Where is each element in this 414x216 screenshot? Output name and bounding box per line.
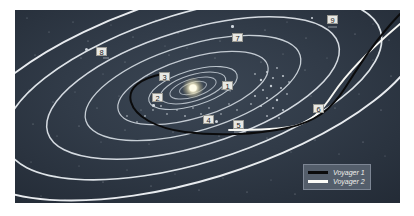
voyager-2-line-swatch [308, 180, 328, 183]
planet-marker-5 [215, 120, 218, 123]
legend-label-voyager-1: Voyager 1 [333, 169, 365, 176]
planet-marker-9 [311, 17, 313, 19]
legend-item-voyager-1: Voyager 1 [308, 168, 365, 177]
callout-label-8[interactable]: 8 [96, 47, 107, 56]
callout-label-1[interactable]: 1 [222, 81, 233, 90]
callout-label-6[interactable]: 6 [313, 104, 324, 113]
solar-system-diagram: 1 2 3 4 5 6 7 8 9 Voyager 1 Voyager 2 [15, 10, 400, 203]
legend-label-voyager-2: Voyager 2 [333, 178, 365, 185]
figure-page: 1 2 3 4 5 6 7 8 9 Voyager 1 Voyager 2 [0, 0, 414, 216]
callout-label-9[interactable]: 9 [327, 15, 338, 24]
callout-label-7[interactable]: 7 [232, 33, 243, 42]
voyager-1-line-swatch [308, 171, 328, 174]
legend-item-voyager-2: Voyager 2 [308, 177, 365, 186]
callout-label-5[interactable]: 5 [233, 120, 244, 129]
planet-marker-2 [152, 104, 155, 107]
sun [182, 77, 204, 99]
callout-label-2[interactable]: 2 [152, 93, 163, 102]
planet-marker-7 [231, 25, 234, 28]
planet-marker-8 [85, 48, 88, 51]
callout-label-4[interactable]: 4 [203, 115, 214, 124]
legend: Voyager 1 Voyager 2 [303, 164, 371, 190]
callout-label-3[interactable]: 3 [159, 72, 170, 81]
